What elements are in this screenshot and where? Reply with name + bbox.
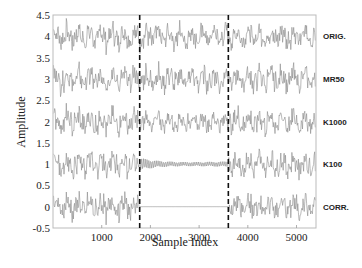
series-label: MR50 — [323, 75, 345, 84]
y-tick-label: 1 — [45, 158, 51, 170]
trace-k100 — [54, 149, 316, 180]
series-label: CORR. — [323, 203, 349, 212]
y-tick-label: -0.5 — [33, 222, 51, 234]
trace-orig — [54, 18, 316, 55]
y-tick-label: 0.5 — [36, 179, 50, 191]
series-label: K1000 — [323, 118, 347, 127]
series-labels: ORIG.MR50K1000K100CORR. — [323, 32, 349, 211]
series-label: K100 — [323, 160, 343, 169]
y-axis-label: Amplitude — [14, 96, 28, 147]
trace-group — [54, 18, 316, 225]
trace-k1000 — [54, 103, 316, 137]
x-tick-label: 4000 — [237, 231, 260, 243]
trace-corr — [54, 191, 316, 225]
plot-frame — [53, 15, 316, 228]
y-tick-label: 2.5 — [36, 94, 50, 106]
y-tick-label: 4 — [45, 30, 51, 42]
x-tick-label: 1000 — [91, 231, 114, 243]
y-tick-label: 0 — [45, 201, 51, 213]
y-tick-label: 2 — [45, 116, 51, 128]
chart: -0.500.511.522.533.544.5 100020003000400… — [0, 0, 362, 268]
y-axis: -0.500.511.522.533.544.5 — [33, 9, 51, 234]
y-tick-label: 1.5 — [36, 137, 50, 149]
trace-mr50 — [54, 61, 316, 96]
series-label: ORIG. — [323, 32, 346, 41]
x-tick-label: 5000 — [286, 231, 309, 243]
y-tick-label: 4.5 — [36, 9, 50, 21]
y-tick-label: 3.5 — [36, 52, 50, 64]
x-axis-label: Sample Index — [152, 235, 218, 249]
y-tick-label: 3 — [45, 73, 51, 85]
